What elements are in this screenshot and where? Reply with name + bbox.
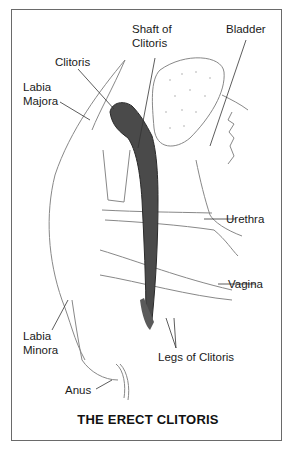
label-anus: Anus <box>65 383 91 397</box>
label-legs-of-clitoris: Legs of Clitoris <box>158 350 234 364</box>
clitoris-shape <box>110 103 158 322</box>
label-shaft-of-clitoris: Shaft of Clitoris <box>132 22 172 50</box>
label-clitoris: Clitoris <box>55 55 90 69</box>
label-urethra: Urethra <box>226 212 264 226</box>
label-labia-majora: Labia Majora <box>23 80 58 108</box>
vagina-shape <box>100 250 232 290</box>
leader-labia-minora <box>52 300 68 330</box>
label-bladder: Bladder <box>226 22 266 36</box>
bladder-shape <box>152 58 224 146</box>
label-labia-minora: Labia Minora <box>23 329 58 357</box>
leader-labia-majora <box>60 102 90 120</box>
label-vagina: Vagina <box>228 277 263 291</box>
bladder-stipple <box>165 71 210 128</box>
leader-bladder <box>210 40 246 146</box>
labia-minora-shape <box>72 300 118 380</box>
diagram-caption: THE ERECT CLITORIS <box>0 412 296 427</box>
leader-anus <box>96 380 112 389</box>
anatomy-illustration <box>0 0 296 453</box>
body-contour <box>222 95 248 110</box>
leader-clitoris <box>78 69 114 109</box>
